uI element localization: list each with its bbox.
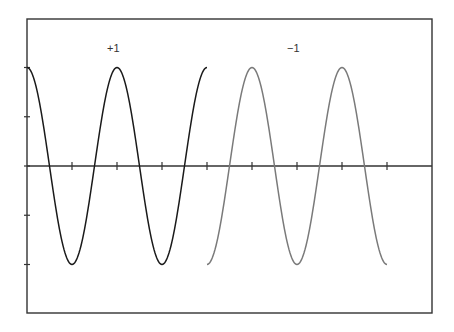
annotation-plus-one: +1 [107, 42, 120, 54]
annotation-minus-one: −1 [287, 42, 300, 54]
waveform-chart [0, 0, 454, 332]
